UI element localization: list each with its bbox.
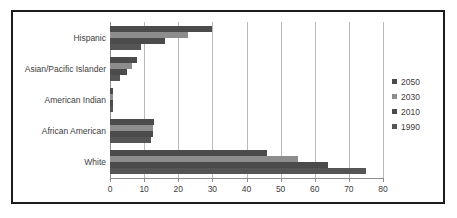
x-tick-40 <box>247 178 248 182</box>
y-axis-label-asian-pacific-islander: Asian/Pacific Islander <box>25 64 106 74</box>
legend-item: 2050 <box>392 74 447 89</box>
y-axis-label-american-indian: American Indian <box>45 95 106 105</box>
bar <box>110 75 120 81</box>
legend-label: 2030 <box>401 92 420 102</box>
bar-group <box>110 57 383 81</box>
legend-label: 2050 <box>401 77 420 87</box>
legend-item: 2010 <box>392 104 447 119</box>
x-tick-label-20: 20 <box>174 184 183 194</box>
legend-item: 2030 <box>392 89 447 104</box>
x-tick-50 <box>281 178 282 182</box>
bar-group <box>110 88 383 112</box>
chart-legend: 2050203020101990 <box>392 74 447 134</box>
bar-group <box>110 26 383 50</box>
y-axis-label-african-american: African American <box>42 126 106 136</box>
bar <box>110 137 151 143</box>
legend-item: 1990 <box>392 119 447 134</box>
legend-swatch-icon <box>392 94 397 99</box>
legend-label: 1990 <box>401 122 420 132</box>
x-tick-label-10: 10 <box>139 184 148 194</box>
x-tick-60 <box>315 178 316 182</box>
x-tick-label-70: 70 <box>344 184 353 194</box>
legend-swatch-icon <box>392 124 397 129</box>
x-tick-70 <box>349 178 350 182</box>
x-tick-label-0: 0 <box>108 184 113 194</box>
legend-swatch-icon <box>392 79 397 84</box>
y-axis-label-white: White <box>84 157 106 167</box>
legend-swatch-icon <box>392 109 397 114</box>
x-tick-0 <box>110 178 111 182</box>
x-tick-10 <box>144 178 145 182</box>
bar <box>110 106 113 112</box>
legend-label: 2010 <box>401 107 420 117</box>
y-axis-category-labels: HispanicAsian/Pacific IslanderAmerican I… <box>0 0 106 218</box>
x-tick-30 <box>212 178 213 182</box>
bar-group <box>110 119 383 143</box>
gridline-80 <box>383 22 384 178</box>
y-axis-label-hispanic: Hispanic <box>73 33 106 43</box>
bar <box>110 44 141 50</box>
chart-figure: HispanicAsian/Pacific IslanderAmerican I… <box>0 0 457 218</box>
bar-group <box>110 150 383 174</box>
x-tick-label-80: 80 <box>378 184 387 194</box>
x-tick-20 <box>178 178 179 182</box>
x-tick-label-60: 60 <box>310 184 319 194</box>
x-tick-label-50: 50 <box>276 184 285 194</box>
plot-area <box>110 22 383 178</box>
x-tick-label-40: 40 <box>242 184 251 194</box>
bar <box>110 168 366 174</box>
x-tick-label-30: 30 <box>208 184 217 194</box>
x-tick-80 <box>383 178 384 182</box>
